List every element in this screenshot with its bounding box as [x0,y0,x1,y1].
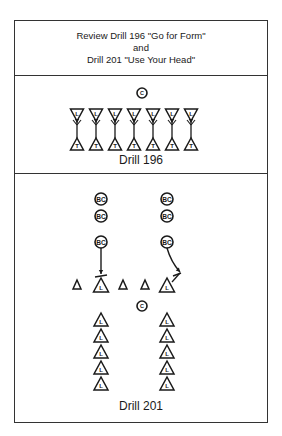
cone-icon [119,280,127,289]
lineman-icon: L [160,329,174,342]
drill-pair: LT [128,109,141,150]
ball-carrier-icon: BC [161,193,173,205]
tackler-icon: T [185,138,198,150]
svg-text:L: L [165,383,169,389]
arrow-head-icon [99,270,103,274]
svg-text:L: L [165,367,169,373]
lineman-icon: L [94,345,108,358]
svg-text:L: L [132,111,136,117]
lineman-icon: L [94,361,108,374]
lineman-icon: L [94,329,108,342]
drill-196-caption: Drill 196 [15,153,267,167]
coach-icon: C [137,88,147,98]
svg-text:L: L [151,111,155,117]
svg-text:L: L [99,285,103,291]
lineman-icon: L [160,361,174,374]
run-path [167,248,180,272]
tackler-icon: T [128,138,141,150]
svg-text:C: C [140,90,144,96]
svg-text:T: T [189,143,193,149]
svg-text:BC: BC [162,196,172,203]
svg-text:T: T [151,143,155,149]
svg-text:L: L [170,111,174,117]
svg-text:T: T [75,143,79,149]
title-box: Review Drill 196 "Go for Form" and Drill… [15,21,267,76]
svg-text:T: T [113,143,117,149]
tackler-icon: T [71,138,84,150]
svg-text:L: L [165,285,169,291]
drill-201-section: BCBCBCBCBCBCLLCLLLLLLLLLL Drill 201 [15,174,267,422]
svg-text:BC: BC [96,196,106,203]
svg-text:L: L [99,367,103,373]
svg-text:L: L [99,351,103,357]
drill-diagram-frame: Review Drill 196 "Go for Form" and Drill… [14,20,268,423]
svg-text:L: L [165,319,169,325]
title-line-1: Review Drill 196 "Go for Form" [76,30,205,42]
svg-text:T: T [94,143,98,149]
drill-pair: LT [90,109,103,150]
lineman-icon: L [160,278,175,292]
svg-text:C: C [140,303,144,309]
svg-text:BC: BC [96,239,106,246]
lineman-icon: L [94,278,109,292]
drill-pair: LT [109,109,122,150]
tackler-icon: T [147,138,160,150]
drill-201-diagram: BCBCBCBCBCBCLLCLLLLLLLLLL [15,174,269,422]
ball-carrier-icon: BC [95,210,107,222]
drill-pair: LT [147,109,160,150]
tackler-icon: T [166,138,179,150]
lineman-icon: L [160,345,174,358]
ball-carrier-icon: BC [161,210,173,222]
svg-text:L: L [94,111,98,117]
title-line-3: Drill 201 "Use Your Head" [87,54,195,66]
lineman-icon: L [160,313,174,326]
tackler-icon: T [90,138,103,150]
coach-icon: C [137,301,147,311]
ball-carrier-icon: BC [95,236,107,248]
lineman-icon: L [160,377,174,390]
drill-pair: LT [166,109,179,150]
cone-icon [73,280,81,289]
drill-196-section: CLTLTLTLTLTLTLT Drill 196 [15,76,267,174]
svg-text:L: L [165,335,169,341]
cone-icon [141,280,149,289]
lineman-icon: L [94,377,108,390]
ball-carrier-icon: BC [161,236,173,248]
drill-pair: LT [71,109,84,150]
svg-text:BC: BC [96,213,106,220]
svg-text:L: L [165,351,169,357]
lineman-icon: L [94,313,108,326]
svg-text:L: L [99,383,103,389]
svg-text:L: L [189,111,193,117]
ball-carrier-icon: BC [95,193,107,205]
drill-pair: LT [185,109,198,150]
svg-text:L: L [113,111,117,117]
drill-201-caption: Drill 201 [15,399,267,413]
svg-text:BC: BC [162,239,172,246]
svg-text:T: T [132,143,136,149]
svg-text:L: L [75,111,79,117]
svg-text:BC: BC [162,213,172,220]
svg-text:L: L [99,335,103,341]
svg-text:T: T [170,143,174,149]
svg-text:L: L [99,319,103,325]
tackler-icon: T [109,138,122,150]
title-line-2: and [133,42,149,54]
